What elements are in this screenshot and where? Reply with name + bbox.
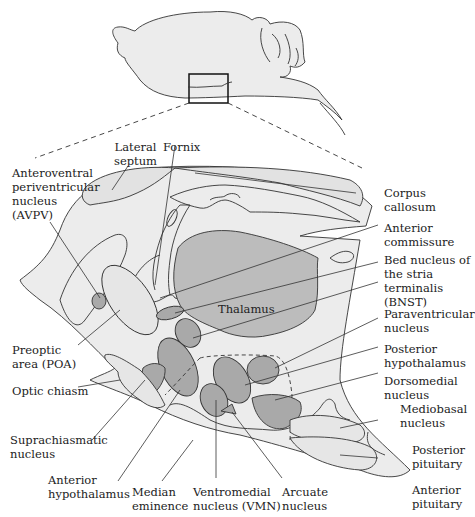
label-paraventricular: Paraventricular nucleus [384,307,475,335]
brain-overview [113,11,345,135]
zoom-line-right [228,103,362,168]
label-anterior-hypothalamus: Anterior hypothalamus [48,473,130,501]
label-dorsomedial: Dorsomedial nucleus [384,374,458,402]
label-posterior-hypothalamus: Posterior hypothalamus [384,342,466,370]
label-vmn: Ventromedial nucleus (VMN) [193,485,281,513]
label-corpus-callosum: Corpus callosum [384,186,436,214]
label-lateral-septum: Lateral septum [114,140,157,168]
label-posterior-pituitary: Posterior pituitary [412,443,465,471]
avpv-shape [92,293,106,309]
label-mediobasal: Mediobasal nucleus [400,402,467,430]
label-anterior-commissure: Anterior commissure [384,221,454,249]
label-arcuate: Arcuate nucleus [282,485,328,513]
label-avpv: Anteroventral periventricular nucleus (A… [12,166,100,222]
label-median-eminence: Median eminence [132,485,188,513]
label-anterior-pituitary: Anterior pituitary [412,483,462,511]
label-thalamus: Thalamus [218,302,275,316]
label-poa: Preoptic area (POA) [12,343,76,371]
label-optic-chiasm: Optic chiasm [12,384,88,398]
label-fornix: Fornix [163,140,200,154]
label-bnst: Bed nucleus of the stria terminalis (BNS… [384,253,470,309]
label-suprachiasmatic: Suprachiasmatic nucleus [10,433,108,461]
